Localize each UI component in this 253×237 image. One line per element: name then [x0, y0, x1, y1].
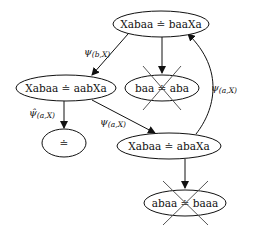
- edge-label-n2-n4: ψ̂(a,X): [29, 107, 55, 120]
- edge-label-n5-n1: ψ(a,X): [211, 82, 237, 95]
- node-n5: Xabaa ≐ abaXa: [117, 133, 221, 159]
- node-n1: Xabaa ≐ baaXa: [113, 11, 209, 37]
- svg-text:≐: ≐: [60, 137, 69, 149]
- svg-text:Xabaa ≐ abaXa: Xabaa ≐ abaXa: [128, 140, 209, 152]
- svg-text:Xabaa ≐ baaXa: Xabaa ≐ baaXa: [120, 18, 201, 30]
- svg-text:Xabaa ≐ aabXa: Xabaa ≐ aabXa: [25, 82, 106, 94]
- node-n2: Xabaa ≐ aabXa: [16, 75, 116, 101]
- edge-label-n2-n5: ψ(a,X): [100, 116, 126, 129]
- node-n4: ≐: [42, 129, 86, 157]
- edge-label-n1-n2: ψ(b,X): [84, 46, 110, 59]
- derivation-graph: ψ(b,X) ψ̂(a,X) ψ(a,X) ψ(a,X) Xabaa ≐ baa…: [0, 0, 253, 237]
